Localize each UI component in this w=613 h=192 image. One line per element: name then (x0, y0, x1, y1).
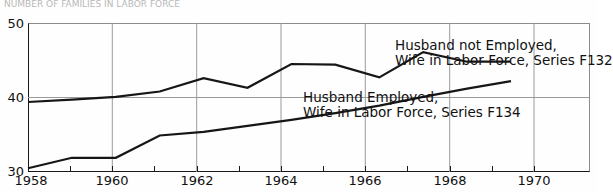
x-axis-label-1968: 1968 (433, 174, 466, 188)
series-annotation-f134-line1: Husband Employed, (303, 90, 521, 105)
series-annotation-f132-line1: Husband not Employed, (395, 38, 613, 53)
x-axis-label-1970: 1970 (517, 174, 550, 188)
series-annotation-f134-line2: Wife in Labor Force, Series F134 (303, 105, 521, 120)
x-tick-1959 (70, 166, 71, 172)
y-axis-label-50: 50 (0, 17, 24, 30)
x-tick-1962 (197, 166, 198, 172)
x-axis-label-1958: 1958 (14, 174, 47, 188)
x-tick-1961 (154, 166, 155, 172)
series-annotation-f132-line2: Wife in Labor Force, Series F132 (395, 53, 613, 68)
x-tick-1964 (281, 166, 282, 172)
series-annotation-f132: Husband not Employed, Wife in Labor Forc… (395, 38, 613, 68)
y-axis-label-40: 40 (0, 91, 24, 104)
x-tick-1963 (239, 166, 240, 172)
x-axis-label-1960: 1960 (95, 174, 128, 188)
x-tick-1968 (450, 166, 451, 172)
x-tick-1965 (323, 166, 324, 172)
x-tick-1970 (534, 166, 535, 172)
x-axis-label-1964: 1964 (264, 174, 297, 188)
x-axis-label-1962: 1962 (180, 174, 213, 188)
x-tick-1967 (407, 166, 408, 172)
x-tick-1969 (492, 166, 493, 172)
x-tick-1966 (365, 166, 366, 172)
series-annotation-f134: Husband Employed, Wife in Labor Force, S… (303, 90, 521, 120)
x-tick-1960 (112, 166, 113, 172)
x-axis-label-1966: 1966 (348, 174, 381, 188)
